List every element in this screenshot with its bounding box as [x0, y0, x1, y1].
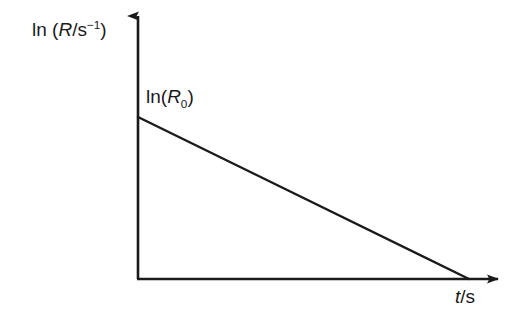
- x-axis-label: t/s: [455, 287, 475, 306]
- y-axis-label-unit: s: [77, 19, 87, 40]
- y-axis-label-prefix: ln (: [32, 19, 58, 40]
- intercept-label-suffix: ): [187, 86, 193, 107]
- y-axis-label: ln (R/s−1): [32, 20, 107, 39]
- intercept-label-variable: R: [167, 86, 181, 107]
- y-axis-label-suffix: ): [100, 19, 106, 40]
- kinetics-plot-figure: ln (R/s−1) ln(R0) t/s: [0, 0, 532, 311]
- y-axis-label-variable: R: [58, 19, 72, 40]
- y-axis-label-exponent: −1: [87, 18, 100, 31]
- plot-canvas: [0, 0, 532, 311]
- x-axis-label-unit: s: [466, 286, 476, 307]
- intercept-label-prefix: ln(: [146, 86, 167, 107]
- data-line-first-order-decay: [138, 117, 469, 279]
- y-intercept-label: ln(R0): [146, 87, 194, 106]
